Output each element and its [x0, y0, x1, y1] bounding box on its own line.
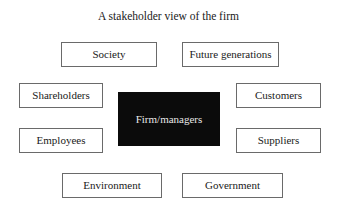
stakeholder-label: Employees	[37, 134, 86, 147]
stakeholder-box-environment: Environment	[62, 173, 162, 198]
firm-managers-label: Firm/managers	[136, 113, 203, 126]
stakeholder-label: Society	[93, 48, 126, 61]
stakeholder-label: Shareholders	[32, 89, 89, 102]
stakeholder-box-suppliers: Suppliers	[236, 128, 321, 153]
stakeholder-label: Customers	[255, 89, 302, 102]
stakeholder-box-customers: Customers	[236, 83, 321, 108]
stakeholder-box-government: Government	[182, 173, 283, 198]
stakeholder-label: Future generations	[189, 48, 271, 61]
firm-managers-box: Firm/managers	[118, 92, 220, 146]
stakeholder-box-shareholders: Shareholders	[19, 83, 103, 108]
stakeholder-box-employees: Employees	[19, 128, 103, 153]
stakeholder-label: Environment	[83, 179, 140, 192]
stakeholder-box-future-generations: Future generations	[182, 42, 279, 67]
stakeholder-label: Suppliers	[258, 134, 300, 147]
diagram-title: A stakeholder view of the firm	[0, 9, 337, 23]
stakeholder-label: Government	[205, 179, 260, 192]
stakeholder-box-society: Society	[61, 42, 157, 67]
